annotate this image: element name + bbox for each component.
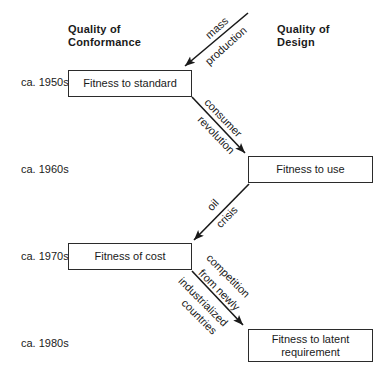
box-label: Fitness of cost	[95, 250, 166, 263]
era-label-1980s: ca. 1980s	[21, 337, 69, 350]
box-fitness-to-use: Fitness to use	[248, 156, 373, 183]
box-label: Fitness to standard	[83, 77, 177, 90]
box-label: Fitness to latent requirement	[255, 333, 366, 359]
heading-line: Quality of	[277, 23, 330, 36]
box-fitness-to-standard: Fitness to standard	[68, 70, 192, 97]
box-label: Fitness to use	[276, 163, 344, 176]
era-label-1970s: ca. 1970s	[21, 250, 69, 263]
era-label-1950s: ca. 1950s	[21, 76, 69, 89]
box-fitness-of-cost: Fitness of cost	[68, 243, 192, 270]
quality-of-conformance-heading: Quality of Conformance	[68, 23, 141, 49]
quality-evolution-diagram: Quality of Conformance Quality of Design…	[0, 0, 391, 383]
box-fitness-to-latent-requirement: Fitness to latent requirement	[248, 329, 373, 362]
heading-line: Conformance	[68, 36, 141, 49]
heading-line: Design	[277, 36, 330, 49]
arrow-lines-layer	[0, 0, 391, 383]
quality-of-design-heading: Quality of Design	[277, 23, 330, 49]
era-label-1960s: ca. 1960s	[21, 163, 69, 176]
heading-line: Quality of	[68, 23, 141, 36]
